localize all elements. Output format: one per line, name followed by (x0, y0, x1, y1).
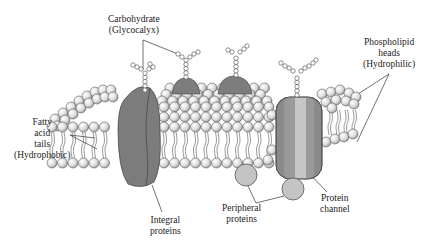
label-carbohydrate-line2: (Glycocalyx) (108, 25, 160, 36)
label-channel-line2: channel (320, 204, 350, 215)
integral-protein (118, 87, 160, 187)
protein-channel (276, 97, 322, 179)
label-peripheral-line1: Peripheral (222, 203, 261, 214)
label-peripheral-proteins: Peripheral proteins (222, 203, 261, 225)
label-phospholipid-line3: (Hydrophilic) (363, 59, 415, 70)
label-protein-channel: Protein channel (320, 193, 350, 215)
label-integral-line1: Integral (150, 215, 181, 226)
label-integral-proteins: Integral proteins (150, 215, 181, 237)
label-phospholipid-heads: Phospholipid heads (Hydrophilic) (363, 37, 415, 70)
label-fatty-line2: acid (14, 128, 70, 139)
label-peripheral-line2: proteins (222, 214, 261, 225)
label-fatty-line1: Fatty (14, 117, 70, 128)
label-fatty-acid-tails: Fatty acid tails (Hydrophobic) (14, 117, 70, 161)
label-phospholipid-line2: heads (363, 48, 415, 59)
label-fatty-line3: tails (14, 139, 70, 150)
label-carbohydrate: Carbohydrate (Glycocalyx) (108, 14, 160, 36)
label-carbohydrate-line1: Carbohydrate (108, 14, 160, 25)
label-phospholipid-line1: Phospholipid (363, 37, 415, 48)
label-channel-line1: Protein (320, 193, 350, 204)
label-fatty-line4: (Hydrophobic) (14, 150, 70, 161)
label-integral-line2: proteins (150, 226, 181, 237)
